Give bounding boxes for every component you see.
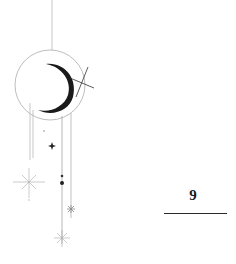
page-number-rule (164, 213, 227, 214)
starburst-left-icon (13, 168, 45, 198)
orbit-circle (15, 50, 85, 120)
starburst-small-icon (67, 205, 75, 213)
celestial-moon-ornament (0, 0, 236, 264)
sparkle-icon (48, 142, 56, 150)
page-number: 9 (160, 187, 226, 204)
crescent-moon-icon (38, 64, 74, 113)
star-dot-small (43, 130, 45, 132)
star-dot-large (60, 181, 64, 185)
star-dot (61, 175, 64, 178)
starburst-bottom-icon (54, 230, 70, 247)
